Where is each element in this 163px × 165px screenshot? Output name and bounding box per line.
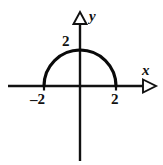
arrow-up-hollow-triangle-icon — [74, 12, 87, 24]
y-axis-label-text: y — [88, 8, 96, 24]
x-tick-label-positive-2: 2 — [110, 89, 126, 112]
y-axis-label-glyph: y — [88, 6, 104, 26]
coordinate-plane-svg — [0, 0, 163, 165]
x-axis-label-glyph: x — [141, 60, 157, 80]
x-tick-label-negative-2: –2 — [29, 89, 55, 112]
x-tick-label-negative-2-glyph: –2 — [29, 89, 55, 109]
semicircle-figure: y x 2 –2 2 — [0, 0, 163, 165]
x-axis-label: x — [141, 60, 157, 83]
x-tick-label-positive-2-glyph: 2 — [110, 89, 126, 109]
x-axis-label-text: x — [141, 62, 150, 78]
x-tick-label-positive-2-text: 2 — [111, 91, 119, 107]
y-axis-label: y — [88, 6, 104, 29]
y-tick-label-2-text: 2 — [62, 33, 70, 49]
y-tick-label-2-glyph: 2 — [61, 31, 77, 51]
y-tick-label-2: 2 — [61, 31, 77, 54]
x-tick-label-negative-2-text: –2 — [29, 91, 45, 107]
